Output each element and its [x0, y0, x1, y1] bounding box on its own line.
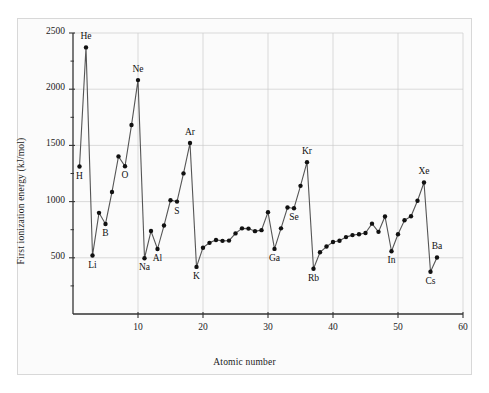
point-label-ba: Ba — [417, 241, 457, 251]
data-point — [376, 230, 380, 234]
data-point — [422, 180, 426, 184]
data-point — [136, 78, 140, 82]
data-point — [240, 226, 244, 230]
data-point — [311, 267, 315, 271]
point-label-rb: Rb — [294, 273, 334, 283]
point-label-s: S — [157, 206, 197, 216]
y-tick-label: 1000 — [25, 195, 65, 205]
data-point — [103, 222, 107, 226]
y-tick-label: 2000 — [25, 82, 65, 92]
data-point — [363, 231, 367, 235]
data-point — [162, 223, 166, 227]
y-tick-label: 500 — [25, 251, 65, 261]
data-point — [116, 154, 120, 158]
point-label-al: Al — [138, 253, 178, 263]
data-point — [344, 235, 348, 239]
data-series-line — [80, 47, 438, 271]
data-point — [279, 226, 283, 230]
data-point — [389, 249, 393, 253]
data-point — [272, 247, 276, 251]
point-label-b: B — [86, 228, 126, 238]
data-point — [90, 253, 94, 257]
data-point — [84, 45, 88, 49]
point-label-se: Se — [274, 212, 314, 222]
x-tick-label: 60 — [443, 322, 483, 332]
data-point — [350, 233, 354, 237]
point-label-kr: Kr — [287, 146, 327, 156]
data-point — [292, 206, 296, 210]
data-point — [155, 247, 159, 251]
data-point — [285, 205, 289, 209]
data-point — [246, 226, 250, 230]
x-tick-label: 10 — [118, 322, 158, 332]
point-label-he: He — [66, 31, 106, 41]
data-point — [305, 160, 309, 164]
x-axis-title: Atomic number — [0, 357, 489, 367]
data-point — [396, 232, 400, 236]
point-label-ne: Ne — [118, 64, 158, 74]
x-tick-label: 20 — [183, 322, 223, 332]
data-point — [337, 239, 341, 243]
point-label-o: O — [105, 170, 145, 180]
point-label-cs: Cs — [411, 276, 451, 286]
data-point — [415, 199, 419, 203]
data-point — [266, 210, 270, 214]
data-point — [77, 164, 81, 168]
point-label-ar: Ar — [170, 127, 210, 137]
point-label-h: H — [60, 171, 100, 181]
data-point — [331, 240, 335, 244]
data-point — [129, 123, 133, 127]
data-point — [220, 239, 224, 243]
data-point — [318, 250, 322, 254]
data-point — [214, 238, 218, 242]
point-label-xe: Xe — [404, 166, 444, 176]
point-label-k: K — [177, 271, 217, 281]
data-point — [357, 232, 361, 236]
y-tick-label: 2500 — [25, 26, 65, 36]
data-point — [370, 221, 374, 225]
data-point — [188, 141, 192, 145]
data-point — [409, 214, 413, 218]
data-point — [259, 228, 263, 232]
data-point — [194, 265, 198, 269]
point-label-na: Na — [125, 262, 165, 272]
data-point — [97, 211, 101, 215]
x-tick-label: 40 — [313, 322, 353, 332]
data-point — [383, 214, 387, 218]
data-point — [298, 184, 302, 188]
data-point — [227, 238, 231, 242]
data-point — [149, 229, 153, 233]
y-tick-label: 1500 — [25, 138, 65, 148]
point-label-li: Li — [73, 260, 113, 270]
data-point — [175, 199, 179, 203]
data-point — [428, 270, 432, 274]
data-series-points — [77, 45, 439, 274]
data-point — [233, 231, 237, 235]
data-point — [123, 164, 127, 168]
data-point — [402, 218, 406, 222]
data-point — [435, 255, 439, 259]
data-point — [168, 198, 172, 202]
point-label-ga: Ga — [255, 253, 295, 263]
data-point — [324, 244, 328, 248]
figure-container: Atomic number First ionization energy (k… — [0, 0, 489, 393]
data-point — [181, 171, 185, 175]
data-point — [253, 229, 257, 233]
x-tick-label: 30 — [248, 322, 288, 332]
data-point — [207, 241, 211, 245]
data-point — [110, 190, 114, 194]
point-label-in: In — [372, 255, 412, 265]
chart-plot-area — [0, 0, 489, 393]
data-point — [201, 245, 205, 249]
x-tick-label: 50 — [378, 322, 418, 332]
